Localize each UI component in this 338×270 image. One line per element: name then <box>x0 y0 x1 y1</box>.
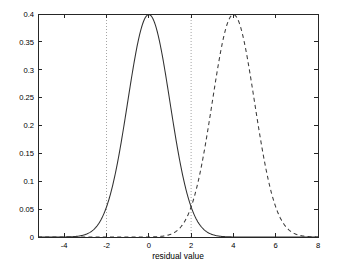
x-tick-label-6: 8 <box>316 241 320 250</box>
x-tick-label-3: 2 <box>189 241 193 250</box>
y-tick-label-2: 0.1 <box>23 177 34 186</box>
x-tick-label-0: -4 <box>61 241 68 250</box>
distribution-plot: -4-202468 00.050.10.150.20.250.30.350.4 … <box>0 0 338 270</box>
y-tick-label-4: 0.2 <box>23 121 34 130</box>
x-tick-label-2: 0 <box>147 241 151 250</box>
x-tick-label-1: -2 <box>103 241 110 250</box>
x-axis-title: residual value <box>152 251 204 261</box>
plot-area-background <box>38 14 318 237</box>
y-tick-label-8: 0.4 <box>23 10 34 19</box>
x-tick-label-5: 6 <box>274 241 278 250</box>
y-tick-label-6: 0.3 <box>23 66 34 75</box>
chart-figure: -4-202468 00.050.10.150.20.250.30.350.4 … <box>0 0 338 270</box>
y-tick-label-7: 0.35 <box>19 38 34 47</box>
y-tick-label-0: 0 <box>30 233 34 242</box>
x-tick-label-4: 4 <box>231 241 235 250</box>
y-tick-label-1: 0.05 <box>19 205 34 214</box>
y-tick-label-3: 0.15 <box>19 149 34 158</box>
y-tick-label-5: 0.25 <box>19 93 34 102</box>
